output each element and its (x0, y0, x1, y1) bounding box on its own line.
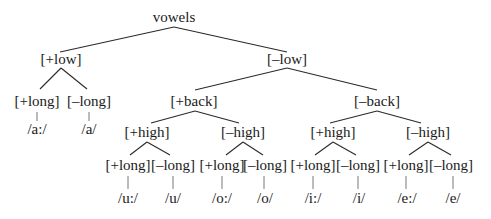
leaf-phoneme: /u:/ (118, 190, 139, 206)
tree-edge (409, 142, 428, 155)
tree-edge (195, 68, 287, 90)
tree-edge (130, 142, 147, 155)
leaf-phoneme: /a:/ (27, 121, 47, 137)
vowel-feature-tree: vowels[+low][–low][+long][–long][+back][… (0, 0, 491, 219)
node-back-minus-high: [–high] (221, 124, 265, 140)
leaf-phoneme: /i/ (353, 190, 366, 206)
node-front-minus-high: [–high] (406, 124, 450, 140)
tree-edge (195, 111, 239, 123)
node-low-plus-long: [+long] (14, 93, 59, 109)
tree-nodes: vowels[+low][–low][+long][–long][+back][… (14, 9, 473, 173)
node-minus-back: [–back] (354, 93, 400, 109)
leaf-phoneme: /u/ (165, 190, 182, 206)
tree-edge (287, 68, 377, 90)
node-bmh-minus-long: [–long] (243, 157, 287, 173)
tree-edge (61, 68, 87, 89)
node-back-plus-high: [+high] (124, 124, 169, 140)
tree-edge (174, 27, 287, 52)
leaf-phoneme: /a/ (82, 121, 98, 137)
node-minus-low: [–low] (267, 51, 307, 67)
tree-edge (377, 111, 421, 123)
tree-edge (147, 142, 170, 155)
tree-edge (40, 68, 61, 89)
leaf-phoneme: /e:/ (397, 190, 417, 206)
node-low-minus-long: [–long] (67, 93, 111, 109)
node-fph-plus-long: [+long] (290, 157, 335, 173)
node-bph-plus-long: [+long] (105, 157, 150, 173)
tree-edge (428, 142, 451, 155)
node-fmh-plus-long: [+long] (383, 157, 428, 173)
tree-edge (226, 142, 243, 155)
leaf-phoneme: /i:/ (305, 190, 323, 206)
tree-edge (151, 111, 195, 123)
node-front-plus-high: [+high] (310, 124, 355, 140)
tree-edge (330, 111, 377, 123)
tree-edge (243, 142, 263, 155)
tree-edge (315, 142, 333, 155)
leaf-phoneme: /o:/ (212, 190, 233, 206)
node-plus-back: [+back] (171, 93, 218, 109)
leaf-phoneme: /e/ (446, 190, 462, 206)
node-bmh-plus-long: [+long] (199, 157, 244, 173)
node-root: vowels (153, 9, 196, 25)
node-fph-minus-long: [–long] (336, 157, 380, 173)
node-plus-low: [+low] (41, 51, 82, 67)
leaf-phoneme: /o/ (257, 190, 274, 206)
node-bph-minus-long: [–long] (151, 157, 195, 173)
tree-edge (60, 27, 174, 52)
tree-edge (333, 142, 356, 155)
node-fmh-minus-long: [–long] (429, 157, 473, 173)
